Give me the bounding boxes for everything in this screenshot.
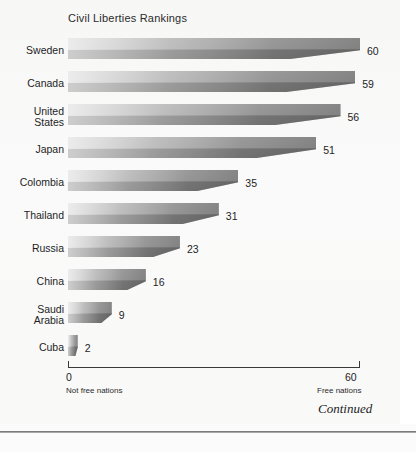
bar-gradient-overlay [68,170,238,191]
bar-fill [68,170,238,191]
bar-category-label: Japan [0,144,64,156]
bar-shadow-band [68,248,180,257]
bar [68,203,219,224]
x-axis-tick-label-min: 0 [66,371,72,383]
x-axis-caption-max: Free nations [317,386,361,395]
bar-fill [68,236,180,257]
bar-value-label: 9 [119,309,125,321]
bar-fill [68,104,341,125]
chart-title: Civil Liberties Rankings [68,12,187,24]
bar-value-label: 56 [348,111,360,123]
bar-category-label: Thailand [0,210,64,222]
bar-row: Japan51 [0,133,401,166]
bar-value-label: 23 [187,243,199,255]
bar [68,236,180,257]
bar-gradient-overlay [68,71,355,92]
bar-fill [68,335,78,356]
bar-shadow-band [68,50,360,59]
bar-fill [68,269,146,290]
bar-row: Thailand31 [0,199,401,232]
bar-category-label: Sweden [0,45,64,57]
bar-gradient-overlay [68,269,146,290]
bar-value-label: 60 [367,45,379,57]
bar-shadow-band [68,116,341,125]
bar-chart-plot-area: Sweden60Canada59United States56Japan51Co… [0,34,401,364]
bar-fill [68,137,316,158]
bar-value-label: 59 [362,78,374,90]
bar [68,104,341,125]
bar-shadow-band [68,314,112,323]
bar-row: Russia23 [0,232,401,265]
bar-gradient-overlay [68,335,78,356]
bar-fill [68,71,355,92]
bar [68,170,238,191]
bar-category-label: United States [0,105,64,128]
bar-row: Canada59 [0,67,401,100]
bar-fill [68,302,112,323]
bar-row: Saudi Arabia9 [0,298,401,331]
bar-shadow-band [68,215,219,224]
bar [68,71,355,92]
bar-gradient-overlay [68,104,341,125]
bar-row: Sweden60 [0,34,401,67]
bar-row: China16 [0,265,401,298]
x-axis-caption-min: Not free nations [66,386,122,395]
bar [68,302,112,323]
bar-category-label: Canada [0,78,64,90]
bar-value-label: 16 [153,276,165,288]
bar-shadow-band [68,281,146,290]
chart-page: Civil Liberties Rankings Sweden60Canada5… [0,0,416,452]
x-axis-line [68,367,360,368]
bar-value-label: 35 [245,177,257,189]
bar-value-label: 2 [85,342,91,354]
bar-row: Colombia35 [0,166,401,199]
page-right-margin [400,0,416,424]
bar-category-label: Saudi Arabia [0,303,64,326]
bar-shadow-band [68,149,316,158]
bar [68,335,78,356]
bar [68,269,146,290]
x-axis-tick-label-max: 60 [345,371,357,383]
bar-value-label: 51 [323,144,335,156]
bar-row: United States56 [0,100,401,133]
page-bottom-rule [0,431,416,433]
x-axis-tick-max [359,361,360,368]
bar-shadow-band [68,182,238,191]
bar-gradient-overlay [68,203,219,224]
bar-gradient-overlay [68,137,316,158]
bar-category-label: Russia [0,243,64,255]
bar-gradient-overlay [68,236,180,257]
x-axis-tick-min [68,361,69,368]
bar [68,137,316,158]
x-axis [68,361,360,369]
bar-shadow-band [68,347,78,356]
bar-gradient-overlay [68,38,360,59]
bar-row: Cuba2 [0,331,401,364]
bar-shadow-band [68,83,355,92]
bar-category-label: Cuba [0,342,64,354]
bar-category-label: Colombia [0,177,64,189]
bar-value-label: 31 [226,210,238,222]
bar-fill [68,38,360,59]
bar [68,38,360,59]
bar-fill [68,203,219,224]
continued-note: Continued [318,401,372,417]
bar-category-label: China [0,276,64,288]
bar-gradient-overlay [68,302,112,323]
